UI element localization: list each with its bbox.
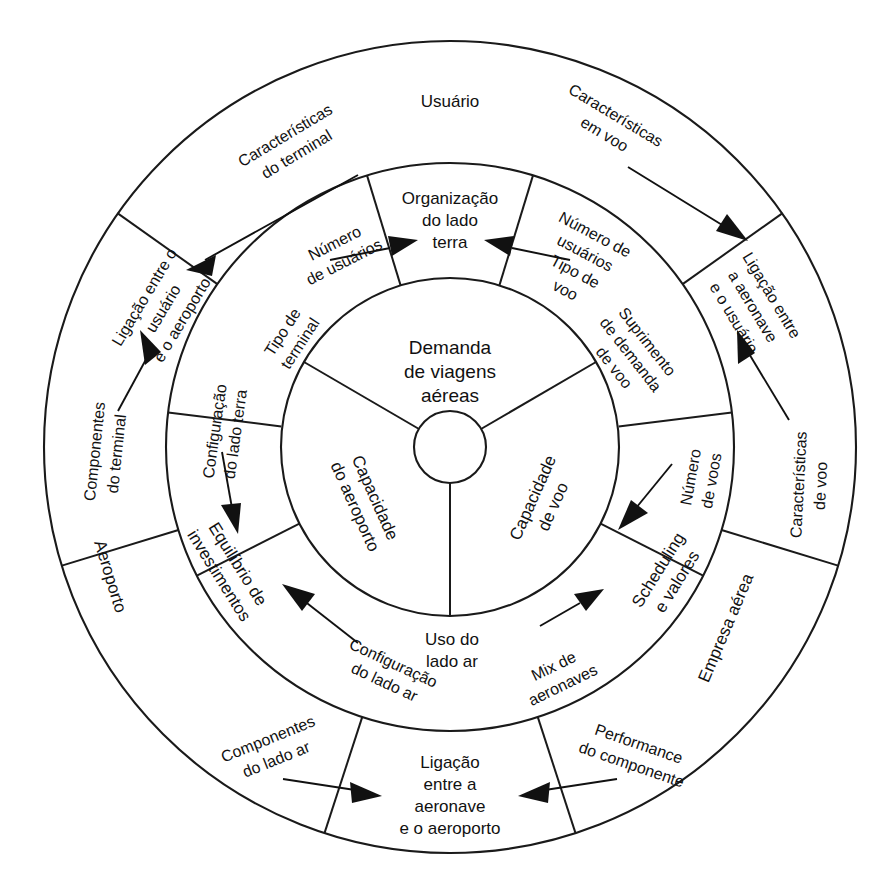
diagram-canvas: Demanda de viagens aéreas Capacidade do …: [0, 0, 889, 876]
center-line-3: aéreas: [421, 385, 479, 406]
sector-line-2: do lado: [422, 211, 478, 230]
connector-line-1: Uso do: [425, 630, 479, 649]
connector-line-2: de voo: [811, 461, 830, 510]
sector-line-1: Ligação: [420, 753, 480, 772]
sector-line-1: Organização: [402, 189, 498, 208]
diagram-background: [0, 0, 889, 876]
sector-label: Usuário: [421, 92, 480, 111]
sector-line-4: e o aeroporto: [399, 819, 500, 838]
center-line-2: de viagens: [404, 361, 496, 382]
sector-line-2: entre a: [424, 775, 477, 794]
sector-line-3: terra: [433, 233, 469, 252]
connector-line-2: lado ar: [426, 652, 478, 671]
center-line-1: Demanda: [409, 337, 492, 358]
label-usuario: Usuário: [421, 92, 480, 111]
sector-line-3: aeronave: [415, 797, 486, 816]
airport-system-wheel-diagram: Demanda de viagens aéreas Capacidade do …: [0, 0, 889, 876]
